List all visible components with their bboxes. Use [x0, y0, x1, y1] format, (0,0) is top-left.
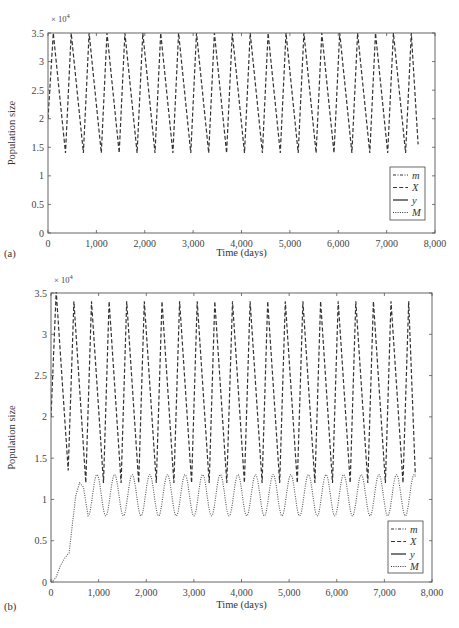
y-tick-label: 0	[39, 228, 44, 239]
panel-label: (a)	[4, 248, 16, 260]
legend-item-y: y	[409, 549, 415, 560]
y-tick-label: 0.5	[32, 199, 45, 210]
x-tick-label: 0	[46, 238, 51, 249]
x-axis-title: Time (days)	[216, 599, 267, 611]
legend-item-X: X	[411, 182, 419, 193]
x-tick-label: 5,000	[278, 587, 301, 598]
plot-area	[48, 33, 418, 153]
x-tick-label: 7,000	[373, 587, 396, 598]
y-axis-title: Population size	[6, 100, 17, 165]
x-tick-label: 3,000	[183, 587, 206, 598]
x-tick-label: 5,000	[279, 238, 302, 249]
y-multiplier: × 104	[51, 12, 70, 24]
x-tick-label: 1,000	[87, 587, 110, 598]
y-tick-label: 1.5	[32, 142, 45, 153]
x-tick-label: 2,000	[134, 238, 157, 249]
y-tick-label: 1.5	[35, 453, 48, 464]
series-M	[51, 475, 415, 582]
y-axis-title: Population size	[6, 405, 17, 470]
x-axis-title: Time (days)	[216, 247, 267, 259]
x-tick-label: 8,000	[424, 238, 447, 249]
x-tick-label: 6,000	[327, 238, 350, 249]
y-tick-label: 2	[42, 411, 47, 422]
series-X	[51, 291, 415, 483]
x-tick-label: 6,000	[326, 587, 349, 598]
y-tick-label: 0.5	[35, 535, 48, 546]
legend: mXyM	[390, 167, 425, 220]
y-tick-label: 3.5	[35, 288, 48, 299]
x-tick-label: 0	[49, 587, 54, 598]
legend-item-M: M	[409, 561, 420, 572]
y-tick-label: 2	[39, 113, 44, 124]
y-tick-label: 3	[39, 56, 44, 67]
y-tick-label: 2.5	[32, 85, 45, 96]
x-tick-label: 2,000	[135, 587, 158, 598]
y-tick-label: 0	[42, 577, 47, 588]
y-tick-label: 3.5	[32, 28, 45, 39]
x-axis: 01,0002,0003,0004,0005,0006,0007,0008,00…	[49, 293, 444, 598]
legend-item-X: X	[409, 536, 417, 547]
y-tick-label: 3	[42, 329, 47, 340]
figure: 01,0002,0003,0004,0005,0006,0007,0008,00…	[0, 0, 459, 628]
legend: mXyM	[388, 521, 423, 573]
legend-item-y: y	[411, 195, 417, 206]
legend-item-m: m	[410, 524, 418, 535]
legend-item-m: m	[412, 170, 420, 181]
chart-panel-a: 01,0002,0003,0004,0005,0006,0007,0008,00…	[4, 12, 446, 260]
x-tick-label: 1,000	[85, 238, 108, 249]
y-tick-label: 1	[42, 494, 47, 505]
y-tick-label: 1	[39, 170, 44, 181]
chart-panel-b: 01,0002,0003,0004,0005,0006,0007,0008,00…	[4, 273, 443, 613]
x-tick-label: 3,000	[182, 238, 205, 249]
x-tick-label: 4,000	[230, 587, 253, 598]
x-tick-label: 8,000	[421, 587, 444, 598]
series-X	[48, 33, 418, 153]
y-tick-label: 2.5	[35, 370, 48, 381]
y-multiplier: × 104	[54, 273, 73, 285]
legend-item-M: M	[411, 207, 422, 218]
x-tick-label: 7,000	[375, 238, 398, 249]
plot-area	[51, 291, 415, 582]
panel-label: (b)	[4, 601, 17, 613]
